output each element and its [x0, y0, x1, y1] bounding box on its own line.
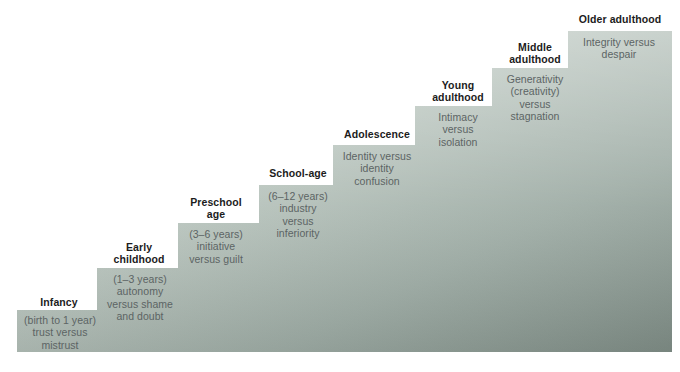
- stage-desc-school-age: (6–12 years) industry versus inferiority: [250, 188, 346, 240]
- stage-desc-middle-adulthood: Generativity (creativity) versus stagnat…: [487, 71, 583, 123]
- stage-desc-older-adulthood: Integrity versus despair: [560, 34, 678, 61]
- stage-title-preschool-age: Preschool age: [170, 196, 262, 221]
- stage-desc-text-early-childhood: (1–3 years) autonomy versus shame and do…: [88, 273, 192, 323]
- erikson-stages-figure: Infancy (birth to 1 year) trust versus m…: [0, 0, 680, 372]
- stage-desc-adolescence: Identity versus identity confusion: [325, 148, 429, 187]
- stage-desc-text-adolescence: Identity versus identity confusion: [325, 150, 429, 187]
- stage-desc-text-older-adulthood: Integrity versus despair: [560, 36, 678, 61]
- stage-desc-text-middle-adulthood: Generativity (creativity) versus stagnat…: [487, 73, 583, 123]
- stage-desc-early-childhood: (1–3 years) autonomy versus shame and do…: [88, 271, 192, 323]
- stage-label-older-adulthood: Older adulthood: [561, 13, 679, 25]
- stage-title-older-adulthood: Older adulthood: [561, 13, 679, 25]
- stage-label-preschool-age: Preschool age: [170, 196, 262, 221]
- stage-desc-text-school-age: (6–12 years) industry versus inferiority: [250, 190, 346, 240]
